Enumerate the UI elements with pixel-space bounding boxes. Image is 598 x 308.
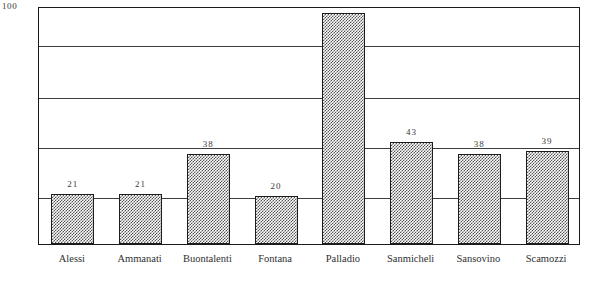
- category-label: Ammanati: [106, 252, 174, 266]
- category-label: Palladio: [309, 252, 377, 266]
- y-axis-max-label: 100: [2, 1, 17, 12]
- category-label: Fontana: [241, 252, 309, 266]
- bar[interactable]: [119, 194, 162, 244]
- category-axis-labels: AlessiAmmanatiBuontalentiFontanaPalladio…: [38, 252, 580, 270]
- bar-slot: 20: [255, 8, 298, 244]
- category-label: Buontalenti: [174, 252, 242, 266]
- bar[interactable]: [322, 13, 365, 244]
- bar[interactable]: [51, 194, 94, 244]
- bar-slot: 38: [458, 8, 501, 244]
- bar-slot: [322, 8, 365, 244]
- bar[interactable]: [187, 154, 230, 244]
- bar-value-label: 38: [458, 139, 501, 150]
- category-label: Scamozzi: [512, 252, 580, 266]
- bar-value-label: 20: [255, 181, 298, 192]
- bar-slot: 21: [119, 8, 162, 244]
- bar-value-label: 38: [187, 139, 230, 150]
- bar-value-label: 21: [119, 179, 162, 190]
- bar-value-label: 43: [390, 127, 433, 138]
- category-label: Alessi: [38, 252, 106, 266]
- bar[interactable]: [458, 154, 501, 244]
- bar-chart: 100 21213820433839 AlessiAmmanatiBuontal…: [0, 0, 598, 308]
- bars-layer: 21213820433839: [39, 8, 579, 244]
- bar[interactable]: [255, 196, 298, 244]
- bar-slot: 21: [51, 8, 94, 244]
- bar-value-label: 21: [51, 179, 94, 190]
- bar-slot: 43: [390, 8, 433, 244]
- bar[interactable]: [390, 142, 433, 244]
- bar-value-label: 39: [526, 136, 569, 147]
- plot-area: 21213820433839: [38, 7, 580, 245]
- bar-slot: 39: [526, 8, 569, 244]
- bar-slot: 38: [187, 8, 230, 244]
- bar[interactable]: [526, 151, 569, 244]
- category-label: Sanmicheli: [377, 252, 445, 266]
- category-label: Sansovino: [445, 252, 513, 266]
